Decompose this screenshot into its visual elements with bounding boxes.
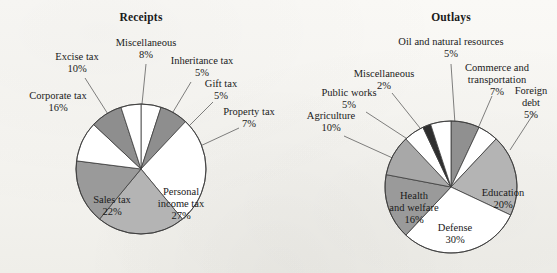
slice-label-personal-income-tax-name2: income tax <box>143 198 219 210</box>
slice-label-personal-income-tax: Personal income tax 27% <box>143 186 219 221</box>
callout-gift-tax: Gift tax 5% <box>190 78 252 102</box>
callout-agriculture-name: Agriculture <box>307 110 355 121</box>
callout-oil-and-natural-resources-name: Oil and natural resources <box>398 36 503 47</box>
slice-label-education-pct: 20% <box>467 199 539 211</box>
slice-label-health-and-welfare-name: Health <box>400 190 428 201</box>
leader-line <box>170 82 191 117</box>
figure-canvas: Receipts Gift tax 5%Property tax 7%Perso… <box>0 0 557 273</box>
callout-oil-and-natural-resources-pct: 5% <box>364 48 538 60</box>
callout-miscellaneous-outlays-name: Miscellaneous <box>354 68 415 79</box>
callout-inheritance-tax-pct: 5% <box>150 67 254 79</box>
slice-label-personal-income-tax-pct: 27% <box>143 210 219 222</box>
callout-foreign-debt-pct: 5% <box>507 109 555 121</box>
callout-foreign-debt: Foreign debt 5% <box>507 85 555 120</box>
callout-excise-tax-pct: 10% <box>31 63 123 75</box>
slice-label-sales-tax: Sales tax 22% <box>73 194 151 218</box>
callout-gift-tax-pct: 5% <box>190 90 252 102</box>
callout-commerce-and-transportation-name2: transportation <box>444 74 550 86</box>
callout-oil-and-natural-resources: Oil and natural resources 5% <box>364 36 538 60</box>
slice-label-health-and-welfare: Health and welfare 16% <box>375 190 453 225</box>
callout-commerce-and-transportation-name: Commerce and <box>465 62 529 73</box>
callout-public-works: Public works 5% <box>303 87 395 111</box>
callout-corporate-tax-pct: 16% <box>2 102 114 114</box>
slice-label-health-and-welfare-pct: 16% <box>375 214 453 226</box>
slice-label-defense-pct: 30% <box>419 234 491 246</box>
callout-miscellaneous-receipts-name: Miscellaneous <box>116 37 177 48</box>
callout-foreign-debt-name: Foreign <box>515 85 548 96</box>
callout-excise-tax-name: Excise tax <box>55 51 98 62</box>
leader-line <box>344 136 397 160</box>
slice-label-defense: Defense 30% <box>419 222 491 246</box>
slice-label-education: Education 20% <box>467 187 539 211</box>
callout-public-works-name: Public works <box>321 87 376 98</box>
callout-agriculture-pct: 10% <box>285 122 377 134</box>
slice-label-health-and-welfare-name2: and welfare <box>375 202 453 214</box>
callout-foreign-debt-name2: debt <box>507 97 555 109</box>
callout-inheritance-tax-name: Inheritance tax <box>171 55 234 66</box>
slice-label-personal-income-tax-name: Personal <box>163 186 199 197</box>
slice-label-sales-tax-name: Sales tax <box>93 194 131 205</box>
callout-inheritance-tax: Inheritance tax 5% <box>150 55 254 79</box>
callout-gift-tax-name: Gift tax <box>205 78 237 89</box>
callout-public-works-pct: 5% <box>303 99 395 111</box>
callout-agriculture: Agriculture 10% <box>285 110 377 134</box>
callout-corporate-tax: Corporate tax 16% <box>2 90 114 114</box>
slice-label-education-name: Education <box>482 187 525 198</box>
slice-label-sales-tax-pct: 22% <box>73 206 151 218</box>
leader-line <box>196 128 239 148</box>
callout-corporate-tax-name: Corporate tax <box>29 90 86 101</box>
leader-line <box>142 64 146 104</box>
leader-line <box>392 93 424 133</box>
